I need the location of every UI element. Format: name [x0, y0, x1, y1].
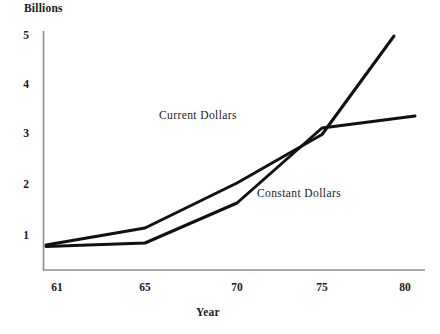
- x-tick-label-80: 80: [393, 281, 417, 293]
- x-tick-label-75: 75: [310, 281, 334, 293]
- x-tick-label-70: 70: [225, 281, 249, 293]
- series-label-constant-dollars: Constant Dollars: [257, 187, 341, 199]
- y-tick-label-2: 2: [18, 178, 34, 190]
- x-tick-label-61: 61: [45, 281, 69, 293]
- x-tick-label-65: 65: [133, 281, 157, 293]
- y-tick-label-1: 1: [18, 229, 34, 241]
- y-tick-label-3: 3: [18, 127, 34, 139]
- chart-page: Billions Year 5 4 3 2 1 61 65 70 75 80 C…: [0, 0, 440, 334]
- series-label-current-dollars: Current Dollars: [159, 109, 237, 121]
- y-tick-label-4: 4: [18, 78, 34, 90]
- y-tick-label-5: 5: [18, 29, 34, 41]
- series-line-current-dollars: [46, 36, 394, 245]
- y-axis-title: Billions: [24, 2, 63, 14]
- x-axis-title: Year: [196, 306, 220, 318]
- series-line-constant-dollars: [46, 116, 415, 247]
